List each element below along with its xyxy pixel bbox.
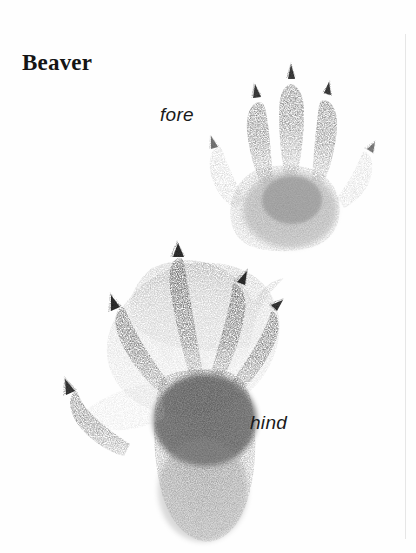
fore-track-figure bbox=[209, 62, 376, 251]
hind-track-label: hind bbox=[250, 412, 287, 434]
page-title: Beaver bbox=[22, 50, 92, 76]
fore-track-label: fore bbox=[160, 104, 194, 126]
field-guide-page: Beaver fore hind bbox=[0, 0, 416, 553]
track-illustration bbox=[0, 0, 416, 553]
hind-track-figure bbox=[63, 240, 284, 542]
column-divider-rule bbox=[405, 34, 406, 539]
